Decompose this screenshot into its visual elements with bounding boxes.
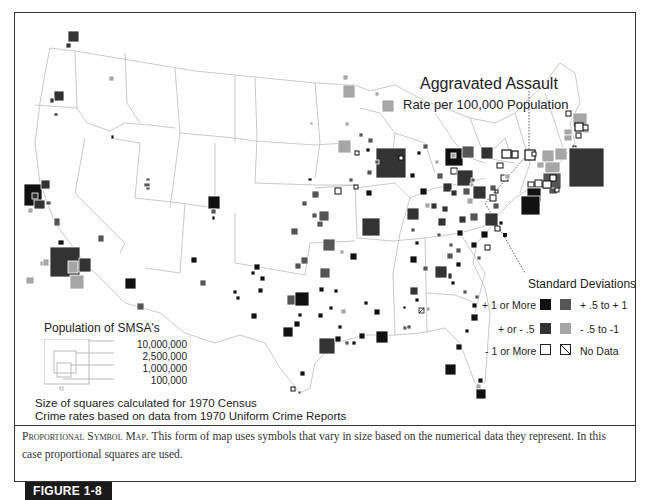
legend-swatch-plus-minus-half bbox=[540, 323, 551, 334]
pop-size-label: 1,000,000 bbox=[97, 363, 187, 375]
legend-swatch-minus-half-to-one bbox=[560, 323, 571, 334]
population-size-labels: 10,000,000 2,500,000 1,000,000 100,000 bbox=[97, 339, 187, 387]
legend-label-plus-minus-half: + or - .5 bbox=[498, 323, 534, 335]
note-ucr: Crime rates based on data from 1970 Unif… bbox=[35, 410, 346, 423]
caption-lead: Proportional Symbol Map. bbox=[22, 430, 149, 442]
pop-size-label: 10,000,000 bbox=[97, 339, 187, 351]
legend-label-minus1: - 1 or More bbox=[485, 345, 536, 357]
figure-caption: Proportional Symbol Map. This form of ma… bbox=[22, 427, 622, 463]
figure-label: FIGURE 1-8 bbox=[25, 482, 112, 500]
figure-frame: Aggravated Assault Rate per 100,000 Popu… bbox=[14, 12, 636, 482]
legend-swatch-no-data bbox=[560, 344, 571, 355]
population-legend-title: Population of SMSA's bbox=[44, 321, 160, 335]
pop-size-label: 2,500,000 bbox=[97, 351, 187, 363]
std-dev-legend-title: Standard Deviations bbox=[528, 277, 636, 291]
note-census: Size of squares calculated for 1970 Cens… bbox=[35, 397, 346, 410]
inset-divider bbox=[485, 91, 529, 273]
legend-swatch-plus1 bbox=[540, 299, 551, 310]
map-panel: Aggravated Assault Rate per 100,000 Popu… bbox=[15, 13, 635, 426]
legend-swatch-minus1 bbox=[540, 344, 551, 355]
pop-size-label: 100,000 bbox=[97, 375, 187, 387]
legend-label-plus-half-to-one: + .5 to + 1 bbox=[580, 299, 627, 311]
legend-label-minus-half-to-one: - .5 to -1 bbox=[580, 323, 619, 335]
map-title: Aggravated Assault bbox=[420, 75, 558, 93]
map-subtitle: Rate per 100,000 Population bbox=[403, 97, 569, 112]
source-notes: Size of squares calculated for 1970 Cens… bbox=[35, 397, 346, 423]
legend-label-no-data: No Data bbox=[580, 345, 619, 357]
population-legend: Population of SMSA's 10,000,000 2,500,00… bbox=[44, 321, 160, 338]
legend-swatch-plus-half-to-one bbox=[560, 299, 571, 310]
legend-label-plus1: + 1 or More bbox=[482, 299, 536, 311]
